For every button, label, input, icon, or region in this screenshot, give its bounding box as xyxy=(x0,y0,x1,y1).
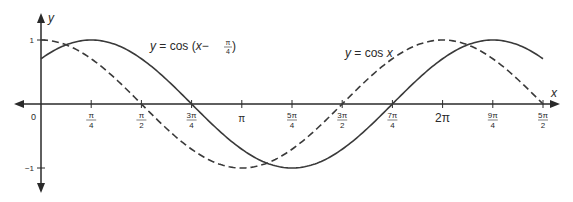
x-tick-label: π xyxy=(238,113,245,124)
y-axis-bottom-arrow-icon xyxy=(37,183,45,193)
dashed-curve-label: y = cos x xyxy=(344,46,394,60)
svg-text:): ) xyxy=(232,39,236,53)
solid-curve-label: y = cos (x− π 4 ) xyxy=(149,39,236,55)
svg-text:y = cos (x−: y = cos (x− xyxy=(149,39,209,53)
svg-text:4: 4 xyxy=(226,48,230,55)
y-tick-label: 1 xyxy=(30,36,35,45)
x-tick-denominator: 2 xyxy=(139,121,144,130)
x-tick-numerator: 5π xyxy=(538,111,548,120)
y-axis: y xyxy=(37,11,55,193)
y-tick-label: −1 xyxy=(25,164,35,173)
cosine-phase-shift-chart: x y 0 1−1 π4π23π4π5π43π27π42π9π45π2 y = … xyxy=(0,0,573,202)
x-tick-denominator: 4 xyxy=(189,121,194,130)
x-tick-denominator: 4 xyxy=(390,121,395,130)
origin-label: 0 xyxy=(31,112,36,122)
svg-text:y = cos x: y = cos x xyxy=(344,46,394,60)
x-tick-numerator: 5π xyxy=(287,111,297,120)
x-axis-left-arrow-icon xyxy=(14,100,24,108)
x-tick-numerator: 9π xyxy=(488,111,498,120)
x-tick-numerator: π xyxy=(139,111,145,120)
x-tick-denominator: 2 xyxy=(340,121,345,130)
x-tick-denominator: 4 xyxy=(491,121,496,130)
x-tick-numerator: 3π xyxy=(187,111,197,120)
x-tick-numerator: π xyxy=(88,111,94,120)
x-tick-numerator: 3π xyxy=(337,111,347,120)
y-axis-label: y xyxy=(47,11,55,25)
x-axis: x xyxy=(14,86,560,108)
x-tick-numerator: 7π xyxy=(387,111,397,120)
x-tick-label: 2π xyxy=(435,111,450,125)
x-tick-denominator: 2 xyxy=(541,121,546,130)
svg-text:π: π xyxy=(226,39,231,46)
x-axis-right-arrow-icon xyxy=(550,100,560,108)
y-tick: −1 xyxy=(25,164,45,173)
x-tick-denominator: 4 xyxy=(89,121,94,130)
x-tick-denominator: 4 xyxy=(290,121,295,130)
x-axis-label: x xyxy=(550,86,558,100)
y-axis-top-arrow-icon xyxy=(37,13,45,23)
